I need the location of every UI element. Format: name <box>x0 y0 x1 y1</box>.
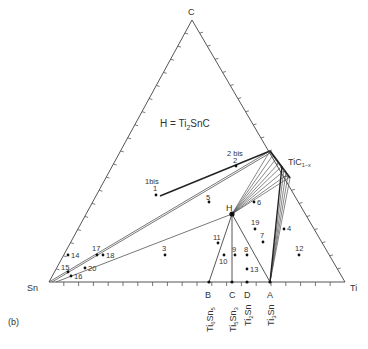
svg-text:3: 3 <box>162 244 166 253</box>
svg-text:8: 8 <box>244 245 248 254</box>
svg-text:Ti3Sn: Ti3Sn <box>266 304 277 326</box>
bottom-axis-ticks <box>64 282 330 286</box>
svg-text:11: 11 <box>213 233 221 242</box>
svg-text:16: 16 <box>74 272 82 281</box>
tie-line-2 <box>160 151 270 196</box>
svg-text:7: 7 <box>260 231 264 240</box>
left-axis-ticks <box>56 33 188 270</box>
legend-h-definition: H = Ti2SnC <box>160 118 210 131</box>
binary-formula-b: Ti6Sn5 <box>205 306 216 332</box>
binary-label-d: D <box>244 290 251 300</box>
vertex-c-label: C <box>188 7 195 17</box>
svg-text:19: 19 <box>251 218 259 227</box>
binary-formula-d: Ti2Sn <box>243 304 254 326</box>
svg-text:4: 4 <box>287 224 291 233</box>
svg-text:13: 13 <box>250 265 258 274</box>
sample-labels: 1bis 1 2 bis 2 3 4 5 6 7 8 9 10 11 12 13… <box>61 149 303 281</box>
svg-text:Ti2Sn: Ti2Sn <box>243 304 254 326</box>
tie-lines-h-binary <box>209 214 270 282</box>
svg-text:17: 17 <box>92 244 100 253</box>
binary-formula-c: Ti5Sn3 <box>228 306 239 332</box>
tie-lines-sn-tic <box>49 151 270 282</box>
svg-text:2: 2 <box>233 156 237 165</box>
point-c <box>230 280 233 283</box>
binary-label-c: C <box>229 290 236 300</box>
point-d <box>245 280 248 283</box>
panel-label: (b) <box>8 317 19 327</box>
binary-formula-a: Ti3Sn <box>266 304 277 326</box>
svg-text:9: 9 <box>232 245 236 254</box>
svg-text:18: 18 <box>106 251 114 260</box>
svg-text:15: 15 <box>61 263 69 272</box>
svg-text:14: 14 <box>71 251 79 260</box>
svg-text:Ti5Sn3: Ti5Sn3 <box>228 306 239 332</box>
svg-text:Ti6Sn5: Ti6Sn5 <box>205 306 216 332</box>
svg-text:20: 20 <box>88 264 96 273</box>
svg-text:10: 10 <box>219 257 227 266</box>
binary-label-b: B <box>205 290 211 300</box>
vertex-sn-label: Sn <box>27 283 38 293</box>
tic-label: TiC1−x <box>288 157 311 168</box>
svg-text:1: 1 <box>153 184 157 193</box>
svg-text:5: 5 <box>206 193 210 202</box>
point-b <box>207 280 210 283</box>
tie-line-a-tic-bold <box>270 166 282 282</box>
svg-text:6: 6 <box>257 198 261 207</box>
right-axis-ticks <box>200 32 341 269</box>
binary-label-a: A <box>267 290 273 300</box>
ternary-triangle <box>49 20 345 282</box>
svg-text:12: 12 <box>295 244 303 253</box>
h-phase-label: H <box>226 203 233 213</box>
point-a <box>268 280 271 283</box>
vertex-ti-label: Ti <box>350 283 357 293</box>
ternary-diagram: H 1bis 1 2 bis 2 3 4 5 6 7 <box>0 0 368 349</box>
